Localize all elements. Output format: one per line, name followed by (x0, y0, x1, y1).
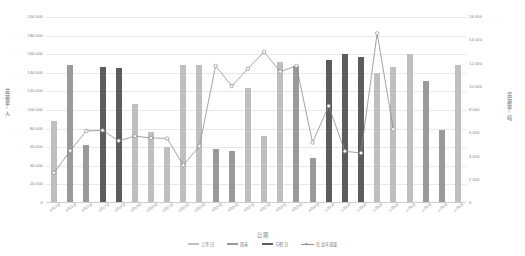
y-tick-label-secondary: 14 000 (469, 38, 482, 42)
x-tick-slot: 4月20日 (143, 205, 159, 227)
bar-slot (337, 17, 353, 203)
legend-color-swatch (227, 243, 238, 246)
bar-slot (256, 17, 272, 203)
legend-color-swatch (188, 243, 199, 246)
y-tick-label-primary: 60 000 (30, 145, 43, 149)
bar (358, 57, 364, 203)
x-tick-label: 4月29日 (292, 203, 303, 213)
x-axis-title: 日期 (0, 231, 525, 238)
y-tick-label-secondary: 0 (469, 201, 471, 205)
legend-label: 工作日 (201, 241, 214, 247)
y-axis-title-secondary: 货运量/吨 (506, 92, 513, 120)
bar-slot (240, 17, 256, 203)
bar (390, 67, 396, 203)
x-tick-slot: 5月7日 (418, 205, 434, 227)
bar (116, 68, 122, 203)
bar-slot (127, 17, 143, 203)
bar-slot (159, 17, 175, 203)
x-tick-slot: 5月1日 (321, 205, 337, 227)
x-tick-slot: 5月6日 (401, 205, 417, 227)
chart-legend: 工作日周末节假日社会车流量 (0, 241, 525, 247)
bar-slot (434, 17, 450, 203)
legend-color-swatch (262, 243, 273, 246)
bar (67, 65, 73, 203)
x-tick-label: 5月8日 (438, 204, 448, 213)
x-tick-label: 4月20日 (146, 203, 157, 213)
y-tick-label-secondary: 2 000 (469, 178, 480, 182)
bar-slot (143, 17, 159, 203)
x-tick-slot: 5月4日 (369, 205, 385, 227)
bar-slot (321, 17, 337, 203)
x-tick-slot: 4月14日 (46, 205, 62, 227)
x-tick-slot: 4月22日 (175, 205, 191, 227)
x-tick-slot: 5月2日 (337, 205, 353, 227)
x-tick-label: 5月3日 (357, 204, 367, 213)
x-tick-label: 5月7日 (422, 204, 432, 213)
bar (148, 132, 154, 203)
x-tick-label: 5月1日 (325, 204, 335, 213)
y-axis-title-primary: 总运量/人 (4, 88, 11, 116)
bar-slot (111, 17, 127, 203)
bar (455, 65, 461, 203)
bar (132, 104, 138, 204)
bar-series (46, 17, 466, 203)
bar (261, 136, 267, 203)
x-tick-slot: 4月19日 (127, 205, 143, 227)
x-tick-slot: 4月25日 (224, 205, 240, 227)
x-tick-slot: 4月30日 (305, 205, 321, 227)
x-tick-label: 5月4日 (373, 204, 383, 213)
bar (164, 147, 170, 203)
x-tick-slot: 4月15日 (62, 205, 78, 227)
y-tick-label-primary: 40 000 (30, 164, 43, 168)
x-tick-label: 4月15日 (66, 203, 77, 213)
x-tick-slot: 4月21日 (159, 205, 175, 227)
x-tick-slot: 4月24日 (208, 205, 224, 227)
legend-label: 社会车流量 (316, 241, 337, 247)
bar-slot (94, 17, 110, 203)
y-tick-label-secondary: 12 000 (469, 62, 482, 66)
x-tick-label: 4月14日 (49, 203, 60, 213)
y-tick-label-secondary: 10 000 (469, 85, 482, 89)
bar-slot (224, 17, 240, 203)
y-tick-label-secondary: 4 000 (469, 155, 480, 159)
bar-slot (208, 17, 224, 203)
bar (213, 149, 219, 203)
bar (342, 54, 348, 203)
bar-slot (62, 17, 78, 203)
bar-slot (288, 17, 304, 203)
legend-item[interactable]: 工作日 (188, 241, 214, 247)
x-tick-label: 4月23日 (195, 203, 206, 213)
x-tick-slot: 4月17日 (94, 205, 110, 227)
bar (326, 60, 332, 203)
x-tick-slot: 4月26日 (240, 205, 256, 227)
bar (374, 73, 380, 203)
x-tick-label: 5月5日 (389, 204, 399, 213)
legend-item[interactable]: 社会车流量 (301, 241, 338, 247)
bar (100, 67, 106, 203)
bar (83, 145, 89, 203)
x-tick-label: 4月22日 (179, 203, 190, 213)
x-tick-label: 4月19日 (130, 203, 141, 213)
bar (51, 121, 57, 203)
y-tick-label-primary: 20 000 (30, 182, 43, 186)
bar (229, 151, 235, 203)
legend-item[interactable]: 节假日 (262, 241, 288, 247)
y-tick-label-primary: 180 000 (28, 34, 44, 38)
x-tick-slot: 5月8日 (434, 205, 450, 227)
legend-label: 节假日 (275, 241, 288, 247)
x-tick-label: 4月21日 (163, 203, 174, 213)
bar (196, 65, 202, 203)
legend-item[interactable]: 周末 (227, 241, 249, 247)
y-tick-label-primary: 80 000 (30, 127, 43, 131)
x-tick-label: 4月27日 (259, 203, 270, 213)
x-tick-label: 5月2日 (341, 204, 351, 213)
bar-slot (450, 17, 466, 203)
bar-slot (369, 17, 385, 203)
x-axis-tick-labels: 4月14日4月15日4月16日4月17日4月18日4月19日4月20日4月21日… (46, 205, 466, 227)
x-tick-slot: 4月16日 (78, 205, 94, 227)
x-tick-label: 4月24日 (211, 203, 222, 213)
y-tick-label-primary: 140 000 (28, 71, 44, 75)
x-tick-label: 4月28日 (276, 203, 287, 213)
bar (277, 62, 283, 203)
x-tick-slot: 4月23日 (191, 205, 207, 227)
